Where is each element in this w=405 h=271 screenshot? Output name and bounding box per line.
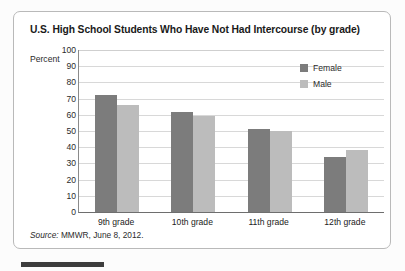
y-tick-label-80: 80 bbox=[30, 77, 76, 87]
chart-panel: U.S. High School Students Who Have Not H… bbox=[13, 11, 391, 249]
gridline-100 bbox=[79, 50, 384, 51]
source-text: MMWR, June 8, 2012. bbox=[61, 230, 144, 240]
chart-figure: U.S. High School Students Who Have Not H… bbox=[0, 0, 405, 271]
legend-swatch-male-icon bbox=[300, 80, 308, 88]
x-tick-label-12th-grade: 12th grade bbox=[307, 217, 383, 227]
y-tick-label-0: 0 bbox=[30, 207, 76, 217]
y-tick-label-60: 60 bbox=[30, 110, 76, 120]
bar-female-10th-grade bbox=[171, 112, 193, 212]
gridline-70 bbox=[79, 99, 384, 100]
x-tick-label-11th-grade: 11th grade bbox=[231, 217, 307, 227]
chart-title: U.S. High School Students Who Have Not H… bbox=[30, 24, 378, 35]
bar-female-9th-grade bbox=[95, 95, 117, 212]
y-tick-label-100: 100 bbox=[30, 45, 76, 55]
y-tick-label-40: 40 bbox=[30, 142, 76, 152]
y-tick-label-30: 30 bbox=[30, 158, 76, 168]
bar-male-12th-grade bbox=[346, 150, 368, 212]
y-axis-ticks: 1009080706050403020100 bbox=[28, 50, 76, 212]
chart-legend: Female Male bbox=[300, 61, 380, 93]
source-note: Source: MMWR, June 8, 2012. bbox=[30, 230, 143, 240]
y-tick-label-70: 70 bbox=[30, 94, 76, 104]
legend-item-male: Male bbox=[300, 77, 380, 90]
legend-swatch-female-icon bbox=[300, 64, 308, 72]
bar-male-9th-grade bbox=[117, 105, 139, 212]
y-tick-label-50: 50 bbox=[30, 126, 76, 136]
y-tick-label-10: 10 bbox=[30, 191, 76, 201]
bar-male-10th-grade bbox=[193, 116, 215, 212]
y-tick-label-20: 20 bbox=[30, 175, 76, 185]
x-tick-label-9th-grade: 9th grade bbox=[78, 217, 154, 227]
source-prefix: Source: bbox=[30, 230, 59, 240]
x-tick-label-10th-grade: 10th grade bbox=[154, 217, 230, 227]
legend-item-female: Female bbox=[300, 61, 380, 74]
bar-female-11th-grade bbox=[248, 129, 270, 212]
legend-label-male: Male bbox=[313, 79, 332, 89]
page-footer-mark bbox=[21, 262, 104, 267]
y-tick-label-90: 90 bbox=[30, 61, 76, 71]
legend-label-female: Female bbox=[313, 63, 342, 73]
bar-female-12th-grade bbox=[324, 157, 346, 212]
bar-male-11th-grade bbox=[270, 131, 292, 212]
